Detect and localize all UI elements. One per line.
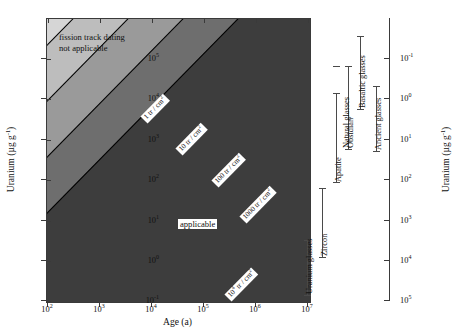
- right-tick-label-2-sup: 1: [408, 133, 411, 139]
- right-tick-label-6: 105: [400, 296, 411, 305]
- x-tick-mark-top-3: [204, 19, 205, 23]
- x-tick-label-0: 102: [41, 305, 52, 314]
- x-axis-title: Age (a): [46, 316, 309, 327]
- right-axis-title-prefix: Uranium (µg g: [440, 135, 451, 192]
- y-tick-label-1-sup: 4: [156, 92, 159, 98]
- y-tick-outer-4: [41, 220, 46, 221]
- right-tick-1: [384, 98, 389, 99]
- range-label-natural-glasses: Natural glasses: [342, 97, 351, 148]
- y-tick-label-0-sup: 5: [156, 52, 159, 58]
- y-tick-outer-6: [41, 300, 46, 301]
- range-label-uranium-glasses: Uranium glasses: [305, 238, 314, 294]
- x-tick-label-0-sup: 2: [50, 303, 53, 309]
- y-tick-mark-1: [47, 99, 51, 100]
- x-tick-mark-top-4: [256, 19, 257, 23]
- right-tick-label-6-sup: 5: [408, 294, 411, 300]
- y-tick-label-1: 104: [148, 94, 159, 103]
- x-tick-mark-top-0: [48, 19, 49, 23]
- y-tick-label-2-sup: 3: [156, 133, 159, 139]
- x-tick-label-5: 107: [301, 305, 312, 314]
- y-tick-label-3-sup: 2: [156, 173, 159, 179]
- x-tick-mark-top-2: [152, 19, 153, 23]
- y-tick-mark-4: [47, 221, 51, 222]
- y-tick-outer-0: [41, 58, 46, 59]
- range-label-ancient-glasses: Ancient glasses: [374, 98, 383, 150]
- y-tick-outer-3: [41, 179, 46, 180]
- x-tick-mark-top-1: [100, 19, 101, 23]
- not-applicable-label: fission track dating not applicable: [59, 32, 125, 54]
- right-tick-label-2: 101: [400, 135, 411, 144]
- y-axis-title-prefix: Uranium (µg g: [5, 135, 16, 192]
- range-label-basaltic-glasses: Basaltic glasses: [358, 55, 367, 108]
- x-tick-label-4-sup: 6: [258, 303, 261, 309]
- x-tick-mark-top-5: [308, 19, 309, 23]
- right-tick-label-3: 102: [400, 175, 411, 184]
- x-tick-label-1-sup: 3: [102, 303, 105, 309]
- right-tick-3: [384, 179, 389, 180]
- y-tick-label-6-sup: -1: [154, 294, 159, 300]
- range-label-apatite: Apatite: [334, 157, 343, 182]
- x-tick-label-2-sup: 4: [154, 303, 157, 309]
- range-label-zircon: Zircon: [320, 234, 329, 256]
- y-tick-label-0: 105: [148, 54, 159, 63]
- y-axis-title: Uranium (µg g-1): [2, 18, 18, 301]
- y-tick-outer-2: [41, 139, 46, 140]
- applicable-label: applicable: [178, 219, 217, 229]
- y-tick-outer-5: [41, 260, 46, 261]
- fission-track-dating-figure: fission track dating not applicable appl…: [0, 0, 472, 334]
- y-axis-title-sup: -1: [3, 130, 10, 135]
- y-tick-label-3: 102: [148, 175, 159, 184]
- main-plot-area: fission track dating not applicable appl…: [46, 18, 311, 303]
- y-tick-label-5: 100: [148, 256, 159, 265]
- y-axis-title-suffix: ): [5, 127, 16, 130]
- x-tick-label-3: 105: [197, 305, 208, 314]
- y-tick-label-6: 10-1: [146, 296, 159, 305]
- right-tick-label-4: 103: [400, 216, 411, 225]
- y-tick-mark-0: [47, 59, 51, 60]
- right-tick-label-1: 100: [400, 94, 411, 103]
- right-tick-2: [384, 139, 389, 140]
- right-axis-title: Uranium (µg g-1): [437, 18, 453, 301]
- right-tick-label-5-sup: 4: [408, 254, 411, 260]
- right-uranium-axis: [389, 18, 390, 301]
- right-tick-0: [384, 58, 389, 59]
- y-tick-label-2: 103: [148, 135, 159, 144]
- right-tick-label-1-sup: 0: [408, 92, 411, 98]
- y-tick-label-4-sup: 1: [156, 214, 159, 220]
- y-tick-label-5-sup: 0: [156, 254, 159, 260]
- range-bar-natural-glasses: [336, 66, 337, 67]
- x-tick-label-1: 103: [93, 305, 104, 314]
- right-axis-title-suffix: ): [440, 127, 451, 130]
- right-tick-label-5: 104: [400, 256, 411, 265]
- right-tick-6: [384, 300, 389, 301]
- right-axis-title-sup: -1: [438, 130, 445, 135]
- right-tick-label-4-sup: 3: [408, 214, 411, 220]
- right-tick-5: [384, 260, 389, 261]
- x-tick-label-4: 106: [249, 305, 260, 314]
- right-tick-4: [384, 220, 389, 221]
- y-tick-mark-5: [47, 261, 51, 262]
- right-tick-label-3-sup: 2: [408, 173, 411, 179]
- y-tick-outer-1: [41, 98, 46, 99]
- x-tick-label-5-sup: 7: [310, 303, 313, 309]
- y-tick-mark-2: [47, 140, 51, 141]
- y-tick-label-4: 101: [148, 216, 159, 225]
- right-tick-label-0-sup: -1: [408, 52, 413, 58]
- x-tick-label-2: 104: [145, 305, 156, 314]
- y-tick-mark-3: [47, 180, 51, 181]
- right-tick-label-0: 10-1: [400, 54, 413, 63]
- x-tick-label-3-sup: 5: [206, 303, 209, 309]
